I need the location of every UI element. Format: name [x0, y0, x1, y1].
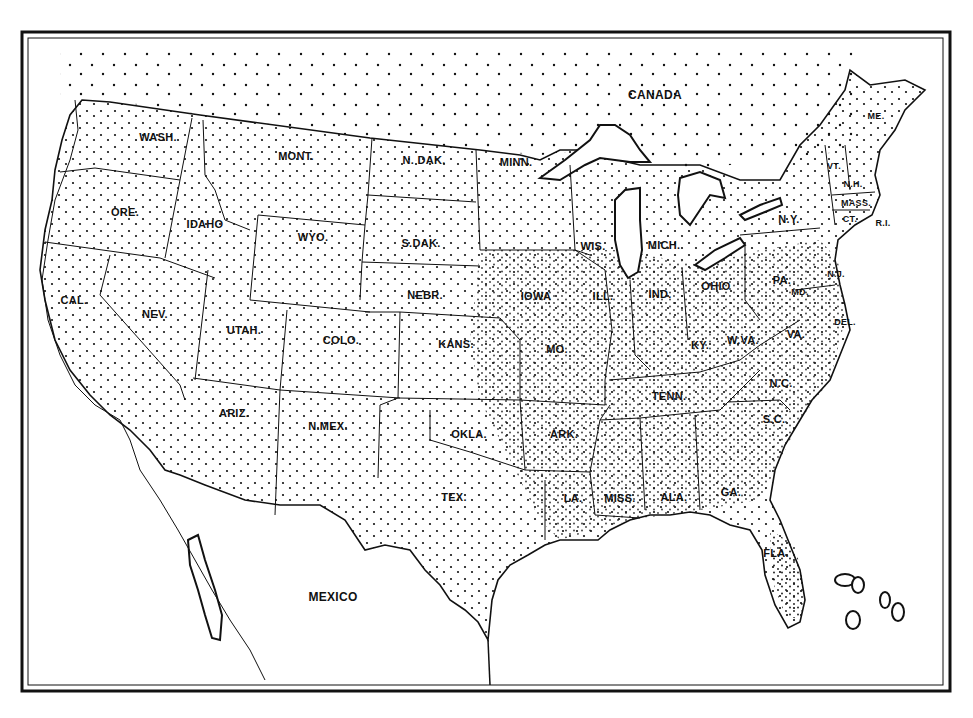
state-label-sdak: S.DAK.	[401, 237, 440, 249]
mexico-gulf-coast	[488, 640, 490, 685]
state-label-nh: N.H.	[843, 179, 862, 189]
state-label-idaho: IDAHO	[187, 218, 224, 230]
state-label-ore: ORE.	[111, 206, 139, 218]
state-label-md: MD.	[791, 287, 808, 297]
state-label-mont: MONT.	[278, 150, 314, 162]
state-label-nc: N.C.	[769, 377, 792, 389]
state-label-kans: KANS.	[438, 338, 474, 350]
state-label-ky: KY.	[691, 339, 709, 351]
state-label-me: ME.	[868, 111, 885, 121]
map-drawing	[0, 0, 973, 718]
state-label-nebr: NEBR.	[407, 289, 443, 301]
state-label-ny: N.Y.	[778, 213, 799, 225]
state-label-mo: MO.	[546, 343, 568, 355]
state-label-del: DEL.	[834, 317, 856, 327]
state-label-ct: CT.	[843, 214, 857, 224]
state-label-fla: FLA.	[763, 547, 789, 559]
state-label-ind: IND.	[648, 288, 671, 300]
state-label-minn: MINN.	[500, 156, 533, 168]
state-label-utah: UTAH.	[227, 324, 261, 336]
lake-michigan	[615, 188, 642, 278]
state-label-wva: W.VA.	[727, 334, 759, 346]
state-label-cal: CAL.	[61, 294, 88, 306]
state-label-mich: MICH.	[648, 239, 681, 251]
state-label-colo: COLO.	[323, 334, 359, 346]
state-label-ga: GA.	[721, 486, 741, 498]
state-label-nev: NEV.	[142, 308, 168, 320]
state-label-la: LA.	[564, 492, 583, 504]
region-label-canada: CANADA	[628, 88, 682, 102]
state-label-ariz: ARIZ.	[219, 407, 249, 419]
state-label-tenn: TENN.	[652, 390, 687, 402]
state-label-ill: ILL.	[593, 290, 614, 302]
state-label-wyo: WYO.	[298, 231, 329, 243]
baja-peninsula	[188, 535, 222, 640]
caribbean-islands	[835, 574, 904, 629]
state-label-nj: N.J.	[827, 269, 845, 279]
state-label-ndak: N. DAK.	[402, 154, 445, 166]
state-label-iowa: IOWA	[521, 290, 552, 302]
state-label-okla: OKLA.	[451, 428, 487, 440]
state-label-mass: MASS.	[841, 198, 871, 208]
state-label-nmex: N.MEX.	[308, 420, 348, 432]
state-label-miss: MISS.	[604, 492, 635, 504]
state-label-sc: S.C.	[763, 413, 786, 425]
state-label-ohio: OHIO	[701, 280, 730, 292]
state-label-ri: R.I.	[875, 218, 890, 228]
state-label-tex: TEX.	[441, 491, 467, 503]
state-label-wis: WIS.	[580, 240, 605, 252]
state-label-va: VA.	[787, 328, 805, 340]
state-label-ala: ALA.	[661, 491, 688, 503]
us-dot-map: CANADAMEXICOWASH.ORE.CAL.IDAHONEV.MONT.W…	[0, 0, 973, 718]
state-label-ark: ARK.	[550, 428, 578, 440]
state-label-pa: PA.	[773, 274, 791, 286]
state-label-wash: WASH.	[139, 131, 177, 143]
region-label-mexico: MEXICO	[308, 590, 357, 604]
state-label-vt: VT.	[827, 161, 841, 171]
